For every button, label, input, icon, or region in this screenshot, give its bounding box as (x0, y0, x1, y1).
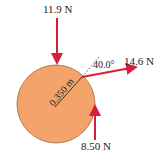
force-diagram (0, 0, 159, 153)
force-label-right: 14.6 N (124, 56, 154, 67)
force-label-top: 11.9 N (43, 4, 73, 15)
angle-label: 40.0° (93, 60, 115, 70)
force-label-bottom: 8.50 N (81, 141, 111, 152)
